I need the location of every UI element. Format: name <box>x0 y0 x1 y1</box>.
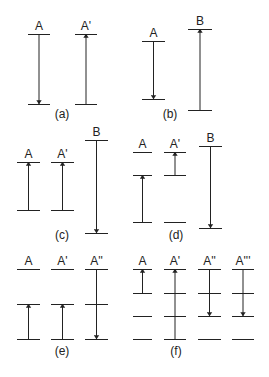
panel-e: AA'A''(e) <box>17 254 108 358</box>
level-column: A <box>17 147 40 211</box>
panel-caption: (f) <box>170 344 181 358</box>
level-column: A' <box>51 254 74 340</box>
level-column: A'' <box>85 254 108 340</box>
column-label: A' <box>81 19 91 33</box>
level-column: A <box>142 26 165 100</box>
level-column: A <box>17 254 40 340</box>
level-column: A <box>133 137 152 223</box>
level-column: A' <box>51 147 74 211</box>
column-label: A <box>138 254 146 268</box>
level-column: A' <box>75 19 97 105</box>
level-column: A' <box>164 137 186 223</box>
column-label: A'' <box>203 254 216 268</box>
panel-caption: (a) <box>55 107 70 121</box>
panel-b: AB(b) <box>142 14 212 121</box>
panel-caption: (c) <box>55 228 69 242</box>
column-label: A' <box>57 147 67 161</box>
panel-c: AA'B(c) <box>17 125 108 242</box>
level-column: A <box>133 254 152 340</box>
panels-group: AA'(a)AB(b)AA'B(c)AA'B(d)AA'A''(e)AA'A''… <box>17 14 254 358</box>
panel-a: AA'(a) <box>28 19 97 121</box>
panel-d: AA'B(d) <box>133 131 222 242</box>
column-label: B <box>92 125 100 139</box>
level-column: A''' <box>232 254 254 340</box>
level-column: B <box>85 125 108 234</box>
level-column: B <box>199 131 222 229</box>
column-label: B <box>196 14 204 28</box>
column-label: A <box>149 26 157 40</box>
level-column: A <box>28 19 50 105</box>
energy-level-transition-diagram: AA'(a)AB(b)AA'B(c)AA'B(d)AA'A''(e)AA'A''… <box>0 0 269 377</box>
panel-caption: (e) <box>55 344 70 358</box>
column-label: A <box>35 19 43 33</box>
column-label: A <box>24 147 32 161</box>
column-label: A'' <box>90 254 103 268</box>
panel-f: AA'A''A'''(f) <box>133 254 254 358</box>
panel-caption: (b) <box>163 107 178 121</box>
panel-caption: (d) <box>169 228 184 242</box>
column-label: A <box>24 254 32 268</box>
column-label: A' <box>57 254 67 268</box>
level-column: B <box>188 14 212 111</box>
level-column: A' <box>164 254 186 340</box>
column-label: A' <box>170 137 180 151</box>
column-label: A' <box>170 254 180 268</box>
column-label: A''' <box>236 254 251 268</box>
level-column: A'' <box>198 254 221 340</box>
column-label: A <box>138 137 146 151</box>
column-label: B <box>206 131 214 145</box>
